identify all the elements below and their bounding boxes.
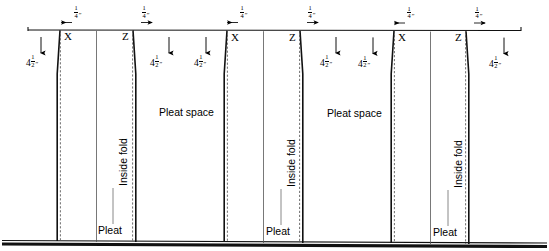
dimension-label-quarter-5: 14″ <box>407 6 414 20</box>
marker-x-1: X <box>64 31 72 42</box>
pleat-group-3 <box>391 31 469 244</box>
depth-label-6: 412″ <box>489 55 501 69</box>
diagram-linework <box>0 0 549 251</box>
pleat-label-3: Pleat <box>433 226 457 238</box>
marker-x-2: X <box>231 32 239 43</box>
dimension-label-quarter-2: 14″ <box>142 5 149 19</box>
dimension-label-quarter-3: 14″ <box>240 5 247 19</box>
pleat-group-2 <box>224 31 303 243</box>
depth-arrows <box>41 37 504 54</box>
dimension-label-quarter-4: 14″ <box>308 5 315 19</box>
inside-fold-label-2: Inside fold <box>285 139 297 187</box>
pleat-space-label-2: Pleat space <box>327 107 382 119</box>
leader-lines <box>113 188 448 226</box>
dimension-label-quarter-1: 14″ <box>74 5 81 19</box>
pleat-label-2: Pleat <box>266 225 290 237</box>
inside-fold-label-1: Inside fold <box>117 138 129 186</box>
pleat-group-1 <box>57 30 136 242</box>
depth-label-3: 412″ <box>194 54 206 68</box>
pleat-label-1: Pleat <box>98 224 122 236</box>
depth-label-2: 412″ <box>150 54 162 68</box>
inside-fold-label-3: Inside fold <box>452 140 464 188</box>
top-edge-line <box>28 27 521 31</box>
marker-z-1: Z <box>122 31 129 42</box>
marker-x-3: X <box>398 32 406 43</box>
depth-label-5: 412″ <box>358 55 370 69</box>
top-dimension-arrows <box>61 23 485 24</box>
depth-label-1: 412″ <box>26 54 38 68</box>
pleat-diagram: 14″ 14″ 14″ 14″ 14″ 14″ X Z X Z X Z 412″… <box>0 0 549 251</box>
pleat-space-label-1: Pleat space <box>159 106 214 118</box>
marker-z-3: Z <box>455 32 462 43</box>
marker-z-2: Z <box>289 32 296 43</box>
dimension-label-quarter-6: 14″ <box>475 6 482 20</box>
depth-label-4: 412″ <box>320 54 332 68</box>
